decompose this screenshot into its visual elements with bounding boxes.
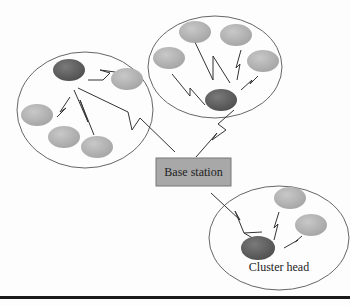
wsn-cluster-diagram: Base station Cluster head: [0, 0, 350, 305]
sensor-node: [153, 47, 185, 69]
wireless-link: [211, 193, 262, 233]
cluster-head-node: [205, 89, 237, 111]
wireless-link: [274, 212, 279, 240]
wireless-link: [236, 50, 241, 80]
left-cluster: [17, 52, 175, 168]
sensor-node: [220, 24, 252, 46]
wireless-link: [57, 97, 70, 117]
base-station: Base station: [156, 158, 231, 186]
sensor-node: [48, 126, 80, 148]
bottom-divider: [0, 296, 350, 299]
cluster-head-node: [241, 236, 275, 260]
wireless-link: [196, 133, 217, 157]
wireless-link: [193, 38, 230, 83]
bottom-right-cluster: Cluster head: [209, 186, 349, 290]
sensor-node: [295, 214, 327, 236]
cluster-head-node: [53, 59, 85, 81]
sensor-node: [179, 21, 211, 43]
base-station-label: Base station: [164, 165, 222, 179]
wireless-link: [172, 74, 205, 105]
sensor-node: [81, 136, 113, 158]
sensor-node: [247, 50, 279, 72]
sensor-node: [111, 68, 143, 90]
wireless-link: [241, 76, 258, 90]
wireless-link: [284, 236, 302, 248]
cluster-head-label: Cluster head: [249, 260, 309, 274]
sensor-node: [21, 104, 53, 126]
top-cluster: [148, 16, 282, 157]
wireless-link: [88, 70, 115, 80]
sensor-node: [274, 187, 306, 209]
wireless-link: [74, 90, 94, 135]
